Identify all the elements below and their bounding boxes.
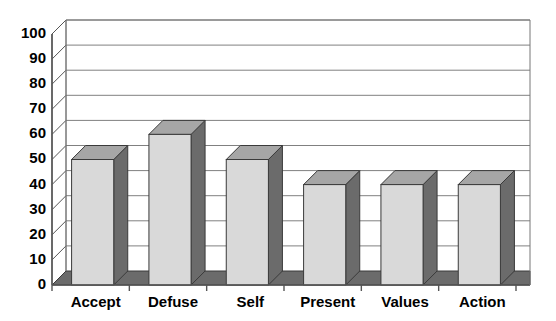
bar-side-face: [423, 171, 437, 285]
y-axis-tick-label: 20: [29, 225, 46, 242]
y-axis-tick-label: 50: [29, 149, 46, 166]
x-axis-ticks: [52, 285, 516, 291]
bar-chart-figure: 0102030405060708090100 AcceptDefuseSelfP…: [0, 0, 556, 321]
bar-front-face: [226, 160, 268, 286]
y-axis-tick-label: 40: [29, 175, 46, 192]
y-axis-tick-labels: 0102030405060708090100: [21, 24, 46, 292]
y-axis-tick-label: 90: [29, 49, 46, 66]
bar-action: [458, 171, 514, 285]
y-axis-tick-label: 70: [29, 99, 46, 116]
y-axis-tick-label: 80: [29, 74, 46, 91]
category-label: Values: [381, 293, 429, 310]
bar-front-face: [304, 185, 346, 285]
y-axis-tick-label: 30: [29, 200, 46, 217]
bar-values: [381, 171, 437, 285]
x-axis-category-labels: AcceptDefuseSelfPresentValuesAction: [71, 293, 506, 310]
y-axis-tick-label: 60: [29, 124, 46, 141]
bar-side-face: [114, 146, 128, 286]
y-axis-tick-label: 100: [21, 24, 46, 41]
bar-present: [304, 171, 360, 285]
bar-self: [226, 146, 282, 286]
bar-front-face: [72, 160, 114, 286]
category-label: Accept: [71, 293, 121, 310]
bar-front-face: [381, 185, 423, 285]
category-label: Action: [459, 293, 506, 310]
y-axis-tick-label: 10: [29, 250, 46, 267]
category-label: Defuse: [148, 293, 198, 310]
category-label: Present: [300, 293, 355, 310]
bar-front-face: [149, 134, 191, 285]
bar-side-face: [191, 120, 205, 285]
bar-front-face: [458, 185, 500, 285]
bar-side-face: [268, 146, 282, 286]
bar-side-face: [346, 171, 360, 285]
bar-accept: [72, 146, 128, 286]
category-label: Self: [237, 293, 266, 310]
y-axis-tick-label: 0: [38, 275, 46, 292]
chart-canvas: 0102030405060708090100 AcceptDefuseSelfP…: [0, 0, 556, 321]
bar-side-face: [500, 171, 514, 285]
bar-defuse: [149, 120, 205, 285]
